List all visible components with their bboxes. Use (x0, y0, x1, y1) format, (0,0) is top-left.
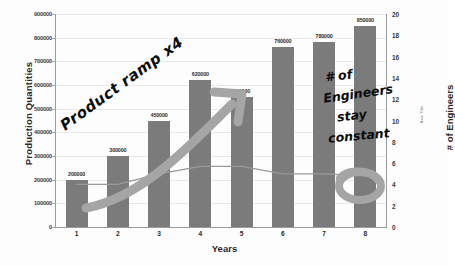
y-axis-left-tick-label: 900000 (34, 11, 52, 17)
y-axis-left-tick-label: 400000 (34, 129, 52, 135)
y-axis-right-tick-label: 16 (392, 53, 399, 60)
y-axis-right-tick-label: 10 (392, 117, 399, 124)
engineers-line (77, 166, 366, 184)
x-axis-tick-label: 5 (231, 230, 253, 237)
y-axis-right-line (386, 14, 387, 227)
y-axis-right-title: # of Engineers (444, 48, 455, 188)
y-axis-left-tick-label: 200000 (34, 177, 52, 183)
y-axis-right-tick-label: 0 (392, 224, 396, 231)
annotation-engineers-line-3: stay (336, 106, 367, 124)
x-axis-tick-label: 1 (66, 230, 88, 237)
x-axis-tick-label: 6 (272, 230, 294, 237)
y-axis-right-tick-label: 14 (392, 74, 399, 81)
y-axis-left-line (55, 14, 56, 227)
x-axis-tick-label: 3 (148, 230, 170, 237)
x-axis-line (55, 227, 387, 228)
y-axis-right-tick-label: 8 (392, 138, 396, 145)
x-axis-tick-label: 4 (189, 230, 211, 237)
x-axis-tick-label: 8 (354, 230, 376, 237)
y-axis-left-tick-label: 700000 (34, 58, 52, 64)
y-axis-left-title: Production Quantities (23, 34, 34, 194)
x-axis-tick-label: 7 (313, 230, 335, 237)
y-axis-left-tick-label: 800000 (34, 35, 52, 41)
y-axis-left-tick-label: 600000 (34, 82, 52, 88)
y-axis-left-tick-label: 500000 (34, 106, 52, 112)
y-axis-left-tick-label: 100000 (34, 200, 52, 206)
y-axis-right-tick-label: 18 (392, 32, 399, 39)
x-axis-tick-label: 2 (107, 230, 129, 237)
y-axis-right-tick-label: 20 (392, 11, 399, 18)
y-axis-left-tick-label: 300000 (34, 153, 52, 159)
x-axis-title: Years (0, 243, 449, 254)
y-axis-right-placeholder-title: Axis Title (419, 89, 424, 141)
y-axis-right-tick-label: 2 (392, 202, 396, 209)
y-axis-right-tick-label: 6 (392, 160, 396, 167)
y-axis-right-tick-label: 12 (392, 96, 399, 103)
y-axis-right-tick-label: 4 (392, 181, 396, 188)
